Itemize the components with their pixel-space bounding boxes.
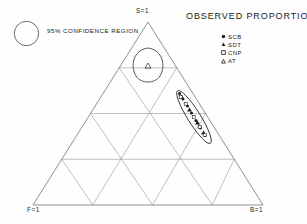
legend-label-sdt: SDT — [228, 42, 241, 48]
data-point-cnp — [203, 133, 206, 136]
data-point-cnp — [198, 125, 201, 128]
ternary-grid — [62, 68, 235, 205]
data-point-cnp — [184, 102, 187, 105]
grid-line-right-parallel — [119, 68, 212, 205]
legend: SCB SDT CNP AT — [219, 33, 242, 66]
grid-line-right-parallel — [62, 159, 93, 205]
data-point-cluster — [178, 92, 207, 137]
filled-circle-icon — [219, 33, 228, 40]
vertex-label-b: B=1 — [250, 207, 263, 213]
confidence-region-label: 95% CONFIDENCE REGION — [47, 28, 139, 34]
confidence-region-sample-circle — [14, 21, 38, 45]
vertex-label-f: F=1 — [27, 207, 40, 213]
filled-triangle-icon — [219, 41, 228, 48]
grid-line-left-parallel — [212, 159, 234, 205]
legend-label-at: AT — [228, 58, 236, 64]
data-point-cnp — [179, 95, 182, 98]
legend-label-scb: SCB — [228, 34, 242, 40]
data-point-cnp — [192, 115, 195, 118]
legend-item-cnp: CNP — [219, 49, 242, 56]
data-point-at — [145, 63, 151, 68]
data-point-sdt — [187, 107, 192, 111]
legend-label-cnp: CNP — [228, 50, 242, 56]
confidence-region-at — [133, 48, 163, 82]
data-point-scb — [190, 112, 193, 115]
legend-item-at: AT — [219, 58, 242, 65]
data-point-scb — [178, 92, 181, 95]
legend-item-scb: SCB — [219, 33, 242, 40]
figure-title: OBSERVED PROPORTIONS — [186, 12, 307, 21]
ternary-diagram-figure: OBSERVED PROPORTIONS 95% CONFIDENCE REGI… — [0, 0, 307, 224]
vertex-label-s: S=1 — [136, 8, 149, 14]
open-triangle-icon — [219, 58, 228, 65]
open-square-icon — [219, 49, 228, 56]
legend-item-sdt: SDT — [219, 41, 242, 48]
